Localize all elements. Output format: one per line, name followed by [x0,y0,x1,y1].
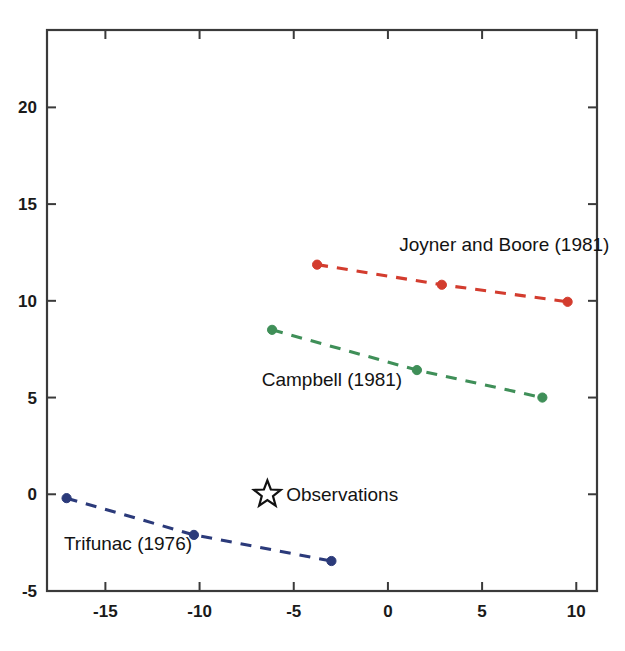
series-label-1: Campbell (1981) [262,369,402,390]
series-point-0-2 [563,297,572,306]
x-tick-label: -15 [93,602,118,621]
x-tick-label: 5 [477,602,486,621]
x-tick-label: -10 [187,602,212,621]
y-tick-label: -5 [22,582,37,601]
chart-canvas: -15-10-50510 -505101520 Joyner and Boore… [0,0,625,651]
y-tick-label: 5 [28,389,37,408]
series-label-0: Joyner and Boore (1981) [399,234,609,255]
y-tick-label: 20 [18,98,37,117]
y-tick-label: 10 [18,292,37,311]
series-point-0-1 [437,280,446,289]
series-point-2-0 [62,494,71,503]
x-tick-label: 10 [567,602,586,621]
x-axis-tick-labels: -15-10-50510 [93,602,586,621]
y-tick-label: 15 [18,195,37,214]
x-tick-label: 0 [383,602,392,621]
series-label-2: Trifunac (1976) [64,533,192,554]
series-point-1-2 [538,393,547,402]
y-tick-label: 0 [28,485,37,504]
plot-background [47,30,597,591]
y-axis-tick-labels: -505101520 [18,98,37,601]
series-point-2-2 [327,556,336,565]
chart-figure: -15-10-50510 -505101520 Joyner and Boore… [0,0,625,651]
legend-label-0: Observations [286,484,398,505]
x-tick-label: -5 [286,602,301,621]
series-point-1-0 [267,325,276,334]
series-point-1-1 [412,365,421,374]
series-point-0-0 [313,260,322,269]
